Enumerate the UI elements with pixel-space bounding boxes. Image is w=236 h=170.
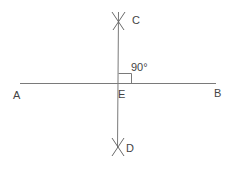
segment-cd xyxy=(118,12,119,148)
label-point-e: E xyxy=(118,88,125,100)
label-point-b: B xyxy=(214,87,221,99)
right-angle-marker xyxy=(119,74,132,84)
label-point-c: C xyxy=(132,14,140,26)
label-point-d: D xyxy=(126,142,134,154)
perpendicular-bisector-diagram: A B C D E 90° xyxy=(0,0,236,170)
angle-label-90: 90° xyxy=(131,61,148,73)
label-point-a: A xyxy=(13,89,21,101)
